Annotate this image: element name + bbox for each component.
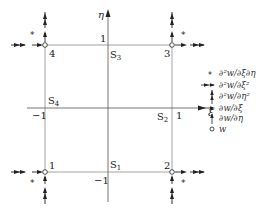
- svg-text:*: *: [30, 30, 35, 40]
- node-4-circle: [43, 43, 48, 48]
- legend-label-dw-dxi: ∂w/∂ξ: [219, 103, 244, 113]
- node-label-2: 2: [164, 160, 170, 171]
- side-label-s2: S2: [157, 111, 168, 124]
- element-boundary: [45, 45, 172, 172]
- svg-text:*: *: [181, 178, 186, 188]
- node-2-dofs: *: [170, 170, 205, 204]
- node-3-dofs: *: [170, 12, 205, 47]
- legend-label-d2w-deta2: ∂²w/∂η²: [219, 91, 250, 101]
- node-label-4: 4: [49, 48, 55, 59]
- node-3-circle: [170, 43, 175, 48]
- legend: * ∂²w/∂ξ∂η ∂²w/∂ξ² ∂²w/∂η² ∂w/∂ξ ∂w/∂η: [201, 68, 256, 134]
- eta-min-tick: −1: [94, 175, 109, 186]
- node-1-circle: [43, 170, 48, 175]
- legend-circle-icon: [210, 127, 214, 131]
- legend-label-w: w: [219, 124, 227, 134]
- legend-double-v-arrow-icon: [210, 90, 213, 104]
- node-4-dofs: *: [11, 12, 47, 47]
- legend-label-d2w-dxideta: ∂²w/∂ξ∂η: [219, 68, 256, 78]
- side-label-s4: S4: [48, 95, 60, 108]
- xi-min-tick: −1: [32, 110, 47, 121]
- side-label-s3: S3: [110, 49, 121, 62]
- node-2-circle: [170, 170, 175, 175]
- element-diagram: η ξ 1 −1 −1 1 S3 S4 S2 S1 4 3 1 2 *: [0, 0, 265, 218]
- svg-text:*: *: [181, 30, 186, 40]
- xi-max-tick: 1: [176, 110, 182, 121]
- eta-max-tick: 1: [100, 33, 106, 44]
- svg-text:*: *: [30, 178, 35, 188]
- node-1-dofs: *: [11, 170, 47, 204]
- side-label-s1: S1: [110, 159, 121, 172]
- legend-label-dw-deta: ∂w/∂η: [219, 113, 244, 123]
- eta-axis-label: η: [98, 9, 104, 20]
- node-label-1: 1: [49, 160, 55, 171]
- node-label-3: 3: [164, 48, 170, 59]
- legend-asterisk-icon: *: [208, 71, 212, 80]
- legend-double-h-arrow-icon: [201, 83, 215, 86]
- legend-label-d2w-dxi2: ∂²w/∂ξ²: [219, 80, 250, 90]
